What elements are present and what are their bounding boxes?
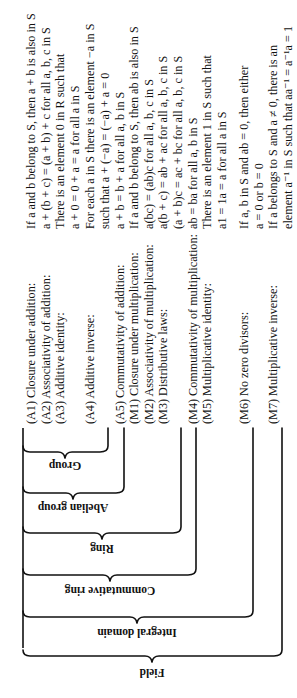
structure-brackets: Group Abelian group Ring Commutative rin… xyxy=(0,0,297,698)
bracket-label-group: Group xyxy=(49,459,81,472)
bracket-label-field: Field xyxy=(139,667,165,679)
bracket-label-commutative-ring: Commutative ring xyxy=(65,584,156,597)
bracket-group: Group xyxy=(23,428,108,472)
bracket-label-abelian-group: Abelian group xyxy=(38,501,108,514)
bracket-ring: Ring xyxy=(23,428,181,555)
algebraic-structures-diagram: (A1) Closure under addition: (A2) Associ… xyxy=(0,0,297,698)
bracket-label-integral-domain: Integral domain xyxy=(97,626,177,639)
bracket-label-ring: Ring xyxy=(90,542,114,555)
